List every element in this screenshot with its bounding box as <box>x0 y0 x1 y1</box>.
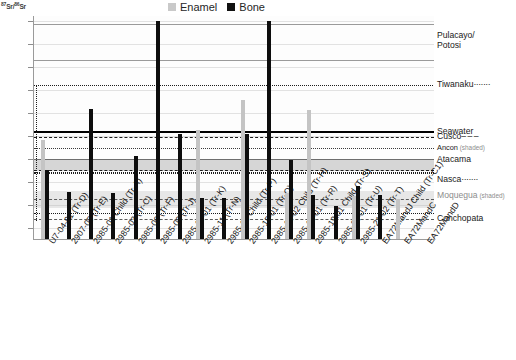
annotation-label: Cusco– – – <box>437 132 478 141</box>
annotation-trail: ······· <box>461 175 478 185</box>
annotation-moquegua: Moquegua (shaded) <box>437 192 505 201</box>
bar-bone-0 <box>45 170 49 239</box>
annotation-trail: – – – <box>461 131 478 141</box>
reference-line-atacama-top <box>34 159 434 160</box>
legend-item-bone: Bone <box>227 1 265 13</box>
bar-bone-6 <box>178 134 182 239</box>
reference-band-atacama <box>34 159 434 172</box>
bar-bone-8 <box>222 198 226 239</box>
bar-bone-12 <box>311 195 315 239</box>
bar-bone-1 <box>67 192 71 239</box>
y-axis-title: 87Sr/86Sr <box>1 1 26 10</box>
annotation-cusco: Cusco– – – <box>437 132 478 141</box>
annotation-sublabel: (shaded) <box>478 193 505 200</box>
bar-bone-3 <box>111 193 115 239</box>
reference-line-seawater <box>34 131 434 133</box>
bar-enamel-16 <box>396 199 400 239</box>
annotation-label-line2: Potosi <box>437 41 475 51</box>
bar-bone-15 <box>378 195 382 239</box>
y-axis-title-end: Sr <box>19 3 25 10</box>
bar-bone-9 <box>245 134 249 239</box>
bar-bone-4 <box>134 156 138 239</box>
legend: Enamel Bone <box>168 1 265 13</box>
annotation-label: Moquegua (shaded) <box>437 192 505 201</box>
annotation-pulacayo: Pulacayo/Potosi <box>437 32 475 51</box>
reference-line-nasca-top <box>34 173 434 174</box>
annotation-ancon: Ancon (shaded) <box>437 144 485 152</box>
x-axis-labels: U7-04-01 (Tr-D)2907-05 (Tr-E)2985-01 Chi… <box>0 240 516 360</box>
legend-swatch-enamel <box>168 3 176 11</box>
bar-bone-5 <box>156 21 160 239</box>
legend-label-bone: Bone <box>239 1 265 13</box>
annotation-trail: ······· <box>473 79 490 89</box>
annotation-label: Ancon (shaded) <box>437 144 485 152</box>
reference-band-left-edge <box>36 85 37 221</box>
annotation-sublabel: (shaded) <box>458 144 485 151</box>
bar-bone-7 <box>200 198 204 239</box>
reference-band-pulacayo-potosi <box>34 24 434 60</box>
gridline <box>34 21 434 22</box>
bar-bone-14 <box>356 186 360 239</box>
bar-bone-11 <box>289 160 293 239</box>
bar-bone-13 <box>334 206 338 239</box>
reference-line-cusco <box>34 137 434 138</box>
bar-bone-10 <box>267 21 271 239</box>
reference-line-ancon-upper <box>34 148 434 149</box>
reference-line-atacama-bottom <box>34 170 434 171</box>
annotation-nasca: Nasca······· <box>437 176 478 185</box>
legend-swatch-bone <box>227 3 235 11</box>
annotation-label: Tiwanaku······· <box>437 80 490 89</box>
legend-item-enamel: Enamel <box>168 1 217 13</box>
annotation-tiwanaku: Tiwanaku······· <box>437 80 490 89</box>
gridline <box>34 67 434 68</box>
chart-root: 87Sr/86Sr Enamel Bone .7140.7130.7120.71… <box>0 0 516 360</box>
annotation-label: Nasca······· <box>437 176 478 185</box>
bar-bone-2 <box>89 109 93 239</box>
legend-label-enamel: Enamel <box>180 1 217 13</box>
